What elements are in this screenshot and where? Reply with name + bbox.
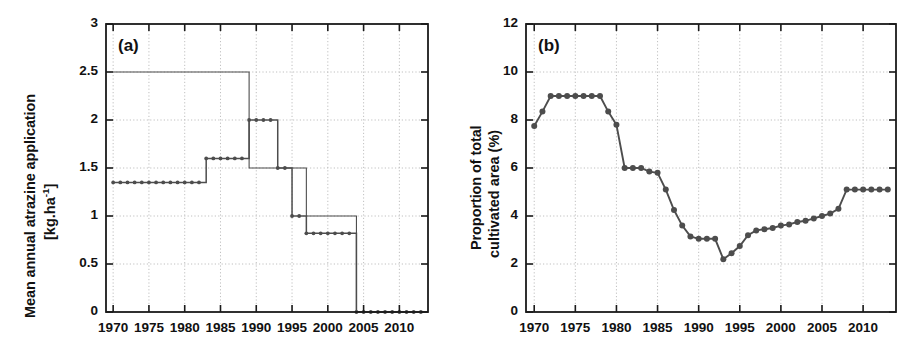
data-point-marker <box>304 231 308 235</box>
data-point-marker <box>176 181 180 185</box>
data-point-marker <box>133 181 137 185</box>
data-point-marker <box>770 225 776 231</box>
data-point-marker <box>290 214 294 218</box>
data-point-marker <box>269 118 273 122</box>
data-point-marker <box>140 181 144 185</box>
data-point-marker <box>860 187 866 193</box>
data-point-marker <box>811 215 817 221</box>
data-point-marker <box>211 157 215 161</box>
panel-b-x-tick-label: 2010 <box>837 320 889 335</box>
data-point-marker <box>147 181 151 185</box>
panel-a-units-suffix: ] <box>42 184 58 189</box>
data-point-marker <box>885 187 891 193</box>
data-point-marker <box>778 223 784 229</box>
panel-a: Mean annual atrazine application [kg.ha-… <box>0 0 454 347</box>
data-point-marker <box>226 157 230 161</box>
panel-b: Proportion of total cultivated area (%) … <box>454 0 908 347</box>
data-point-marker <box>539 109 545 115</box>
data-point-marker <box>696 236 702 242</box>
panel-a-y-tick-label: 1 <box>44 207 98 222</box>
data-point-marker <box>297 214 301 218</box>
data-point-marker <box>531 123 537 129</box>
data-point-marker <box>548 93 554 99</box>
data-point-marker <box>126 181 130 185</box>
panel-a-tag: (a) <box>118 36 139 56</box>
data-point-marker <box>190 181 194 185</box>
data-point-marker <box>169 181 173 185</box>
data-point-marker <box>852 187 858 193</box>
data-point-marker <box>161 181 165 185</box>
data-point-marker <box>646 169 652 175</box>
data-point-marker <box>597 93 603 99</box>
data-point-marker <box>581 93 587 99</box>
data-point-marker <box>233 157 237 161</box>
data-point-marker <box>877 187 883 193</box>
data-line-series-1 <box>113 72 421 312</box>
data-point-marker <box>868 187 874 193</box>
data-point-marker <box>340 231 344 235</box>
data-point-marker <box>219 157 223 161</box>
panel-b-y-tick-label: 6 <box>464 159 518 174</box>
panel-b-y-tick-label: 12 <box>464 15 518 30</box>
data-point-marker <box>262 118 266 122</box>
data-point-marker <box>663 187 669 193</box>
data-point-marker <box>589 93 595 99</box>
panel-b-y-axis-label-line1: Proportion of total <box>468 125 484 250</box>
panel-a-y-axis-label: Mean annual atrazine application <box>22 94 38 318</box>
data-point-marker <box>655 170 661 176</box>
data-point-marker <box>761 226 767 232</box>
data-point-marker <box>745 232 751 238</box>
panel-b-y-tick-label: 2 <box>464 255 518 270</box>
panel-a-y-tick-label: 2 <box>44 111 98 126</box>
data-point-marker <box>786 221 792 227</box>
data-point-marker <box>556 93 562 99</box>
data-markers-series-0 <box>531 93 891 262</box>
data-point-marker <box>312 231 316 235</box>
data-point-marker <box>753 227 759 233</box>
panel-b-y-tick-label: 0 <box>464 303 518 318</box>
data-point-marker <box>794 219 800 225</box>
panel-a-y-tick-label: 3 <box>44 15 98 30</box>
panel-b-y-axis-label-line2: cultivated area (%) <box>486 130 502 258</box>
data-point-marker <box>240 157 244 161</box>
data-point-marker <box>638 165 644 171</box>
panel-b-plot <box>454 0 908 347</box>
data-point-marker <box>254 118 258 122</box>
data-point-marker <box>729 250 735 256</box>
data-point-marker <box>197 181 201 185</box>
data-point-marker <box>564 93 570 99</box>
data-point-marker <box>204 157 208 161</box>
panel-b-tag: (b) <box>538 36 560 56</box>
data-point-marker <box>333 231 337 235</box>
data-point-marker <box>118 181 122 185</box>
data-point-marker <box>630 165 636 171</box>
panel-a-units-exponent: -1 <box>40 189 51 198</box>
data-point-marker <box>613 122 619 128</box>
panel-a-x-tick-label: 2010 <box>373 320 425 335</box>
panel-a-y-tick-label: 1.5 <box>44 159 98 174</box>
data-point-marker <box>319 231 323 235</box>
grid-lines <box>526 24 896 312</box>
panel-a-y-tick-label: 0.5 <box>44 255 98 270</box>
data-point-marker <box>671 207 677 213</box>
data-line-series-0 <box>534 96 888 259</box>
data-point-marker <box>111 181 115 185</box>
panel-a-y-tick-label: 0 <box>44 303 98 318</box>
data-point-marker <box>679 223 685 229</box>
data-point-marker <box>154 181 158 185</box>
panel-b-y-tick-label: 8 <box>464 111 518 126</box>
data-point-marker <box>803 218 809 224</box>
data-point-marker <box>183 181 187 185</box>
data-point-marker <box>712 236 718 242</box>
data-point-marker <box>844 187 850 193</box>
data-point-marker <box>704 236 710 242</box>
data-point-marker <box>835 206 841 212</box>
data-point-marker <box>720 256 726 262</box>
panel-a-y-tick-label: 2.5 <box>44 63 98 78</box>
data-point-marker <box>622 165 628 171</box>
data-point-marker <box>737 243 743 249</box>
panel-b-y-tick-label: 10 <box>464 63 518 78</box>
data-point-marker <box>827 211 833 217</box>
data-point-marker <box>605 109 611 115</box>
panel-b-y-tick-label: 4 <box>464 207 518 222</box>
